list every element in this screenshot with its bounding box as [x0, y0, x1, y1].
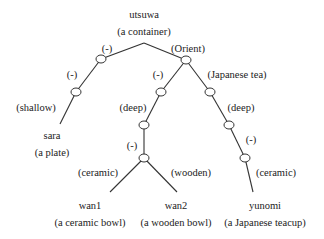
- node-yunomi-deep: [224, 121, 234, 129]
- edge-shallow-to-sara: [60, 92, 76, 124]
- edge-labels: (-) (Orient) (-) (shallow) (-) (Japanese…: [16, 43, 296, 179]
- label-yunomi-mid: (-): [246, 134, 257, 146]
- root-gloss: (a container): [117, 26, 171, 38]
- node-orient-left: [156, 88, 166, 96]
- leaf-wan2-gloss: (a wooden bowl): [140, 217, 212, 229]
- leaf-labels: sara (a plate) wan1 (a ceramic bowl) wan…: [35, 130, 307, 229]
- node-orient: [181, 56, 191, 64]
- label-japanese-tea: (Japanese tea): [207, 69, 267, 81]
- edge-orient-right: [186, 60, 210, 92]
- leaf-wan1-gloss: (a ceramic bowl): [54, 217, 126, 229]
- label-orient-left: (-): [153, 69, 164, 81]
- label-wan-mid: (-): [127, 140, 138, 152]
- root-word: utsuwa: [129, 9, 159, 20]
- node-left: [96, 55, 106, 63]
- label-yunomi-ceramic: (ceramic): [256, 167, 297, 179]
- leaf-sara-gloss: (a plate): [35, 147, 70, 159]
- label-wan-ceramic: (ceramic): [78, 167, 119, 179]
- label-root-left: (-): [102, 43, 113, 55]
- edge-yunomi-mid: [229, 125, 245, 158]
- edge-yunomi-ceramic: [245, 158, 253, 192]
- edge-yunomi-deep: [210, 92, 229, 125]
- label-yunomi-deep: (deep): [228, 102, 255, 114]
- node-deep: [139, 121, 149, 129]
- leaf-wan2-word: wan2: [165, 200, 188, 211]
- node-wan-split: [139, 154, 149, 162]
- leaf-yunomi-word: yunomi: [249, 200, 281, 211]
- edge-left-to-shallow-node: [76, 59, 101, 92]
- leaf-yunomi-gloss: (a Japanese teacup): [224, 217, 306, 229]
- edge-orient-left-deep: [144, 92, 161, 125]
- concept-tree-diagram: utsuwa (a container): [0, 0, 324, 239]
- label-orient-left-deep: (deep): [120, 102, 147, 114]
- label-shallow: (shallow): [16, 102, 56, 114]
- label-wan-wooden: (wooden): [171, 167, 212, 179]
- label-root-orient: (Orient): [171, 43, 205, 55]
- node-japanese-tea: [205, 88, 215, 96]
- leaf-sara-word: sara: [44, 130, 61, 141]
- leaf-wan1-word: wan1: [79, 200, 102, 211]
- edge-orient-left: [161, 60, 186, 92]
- node-yunomi-mid: [240, 154, 250, 162]
- node-shallow: [71, 88, 81, 96]
- label-left-mid: (-): [67, 69, 78, 81]
